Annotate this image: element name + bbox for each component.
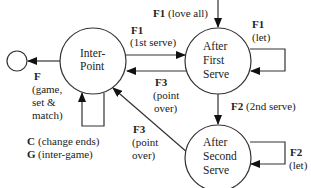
after-second-label-1: After bbox=[203, 136, 227, 148]
after-second-label-2: Second bbox=[203, 150, 237, 162]
inter-game-desc: (inter-game) bbox=[38, 148, 93, 161]
entry-desc: (love all) bbox=[168, 7, 208, 20]
entry-key: F1 bbox=[153, 7, 165, 19]
first-point-over-desc-1: (point bbox=[153, 89, 179, 102]
game-set-match-desc-3: match) bbox=[32, 109, 63, 122]
after-first-label-2: First bbox=[203, 54, 225, 66]
edge-inter-loop bbox=[82, 93, 104, 126]
after-first-label-3: Serve bbox=[203, 68, 229, 80]
second-let-key: F2 bbox=[290, 146, 303, 158]
first-let-desc: (let) bbox=[252, 31, 271, 44]
second-point-over-desc-1: (point bbox=[132, 136, 158, 149]
second-serve-desc: (2nd serve) bbox=[246, 100, 296, 113]
after-first-label-1: After bbox=[203, 40, 227, 52]
first-serve-key: F1 bbox=[131, 24, 143, 36]
after-second-label-3: Serve bbox=[203, 164, 229, 176]
first-point-over-desc-2: over) bbox=[154, 102, 178, 115]
second-serve-key: F2 bbox=[231, 100, 244, 112]
inter-point-label-2: Point bbox=[80, 60, 105, 72]
edge-first-let bbox=[250, 49, 285, 71]
second-let-desc: (let) bbox=[289, 159, 308, 172]
first-point-over-key: F3 bbox=[155, 76, 168, 88]
inter-point-label-1: Inter- bbox=[80, 47, 105, 59]
edge-second-let bbox=[250, 142, 285, 164]
inter-game-key: G bbox=[27, 148, 36, 160]
first-serve-desc: (1st serve) bbox=[130, 36, 176, 49]
second-point-over-desc-2: over) bbox=[132, 149, 156, 162]
second-point-over-key: F3 bbox=[133, 123, 146, 135]
change-ends-desc: (change ends) bbox=[38, 135, 100, 148]
first-let-key: F1 bbox=[252, 18, 264, 30]
state-diagram: Inter- Point After First Serve After Sec… bbox=[0, 0, 311, 188]
game-set-match-desc-2: set & bbox=[32, 96, 56, 108]
game-set-match-desc-1: (game, bbox=[32, 83, 62, 96]
change-ends-key: C bbox=[27, 135, 35, 147]
game-set-match-key: F bbox=[34, 70, 41, 82]
terminal-node bbox=[7, 51, 27, 71]
